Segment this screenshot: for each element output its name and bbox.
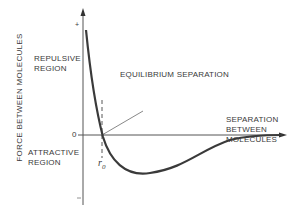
x-axis-label-line2: BETWEEN (226, 125, 267, 135)
attractive-region-line1: ATTRACTIVE (28, 148, 79, 158)
x-axis-label-line3: MOLECULES (226, 135, 277, 145)
equilibrium-separation-label: EQUILIBRIUM SEPARATION (120, 70, 229, 80)
plus-tick-label: + (75, 20, 79, 30)
repulsive-region-line2: REGION (34, 64, 67, 74)
repulsive-region-line1: REPULSIVE (34, 54, 81, 64)
attractive-region-line2: REGION (28, 158, 61, 168)
x-axis-label-line1: SEPARATION (226, 115, 278, 125)
r0-subscript: 0 (102, 163, 106, 171)
force-curve-diagram (0, 0, 300, 210)
equilibrium-leader-line (102, 111, 143, 135)
y-axis-arrow-icon (81, 8, 86, 16)
zero-tick-label: 0 (72, 130, 77, 140)
force-curve (86, 30, 282, 174)
r0-label: r0 (98, 157, 105, 171)
y-axis-label: FORCE BETWEEN MOLECULES (15, 23, 24, 173)
